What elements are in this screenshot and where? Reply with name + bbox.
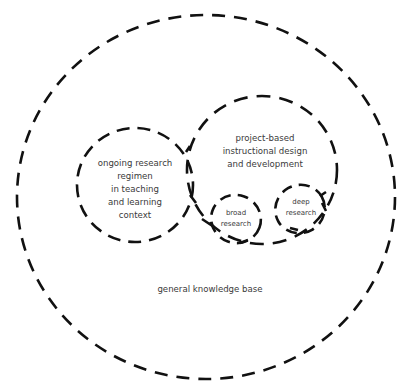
label-line: and development <box>205 158 325 171</box>
deep-research-label: deep research <box>276 197 326 218</box>
general-knowledge-base-circle <box>17 15 395 379</box>
general-knowledge-base-label: general knowledge base <box>130 284 290 294</box>
diagram-canvas <box>0 0 406 390</box>
label-line: regimen <box>82 170 188 183</box>
broad-research-label: broad research <box>211 208 261 229</box>
label-line: research <box>276 208 326 219</box>
label-line: project-based <box>205 132 325 145</box>
label-line: ongoing research <box>82 157 188 170</box>
label-line: in teaching <box>82 183 188 196</box>
label-line: broad <box>211 208 261 219</box>
label-line: instructional design <box>205 145 325 158</box>
label-line: context <box>82 209 188 222</box>
project-based-design-label: project-based instructional design and d… <box>205 132 325 171</box>
label-line: and learning <box>82 196 188 209</box>
label-line: research <box>211 219 261 230</box>
ongoing-research-label: ongoing research regimen in teaching and… <box>82 157 188 222</box>
label-line: deep <box>276 197 326 208</box>
